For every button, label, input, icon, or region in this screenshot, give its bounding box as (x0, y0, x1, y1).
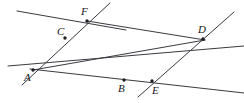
horizontal-line-at-A (8, 46, 244, 66)
label-e: E (152, 85, 159, 96)
label-a: A (24, 72, 31, 83)
diagonal-A-to-D (33, 40, 205, 70)
label-c: C (57, 26, 64, 37)
segment-F-to-D (87, 21, 205, 40)
point-f (85, 19, 88, 22)
point-d (201, 37, 204, 40)
label-f: F (81, 6, 88, 17)
line-A-B-E-extended (30, 69, 244, 93)
point-e (150, 79, 153, 82)
point-a (31, 68, 34, 71)
label-d: D (198, 24, 206, 35)
geometry-figure: ACFBED (0, 0, 244, 103)
label-b: B (118, 83, 125, 94)
lines-group (8, 3, 244, 97)
top-line-through-F (17, 11, 126, 30)
